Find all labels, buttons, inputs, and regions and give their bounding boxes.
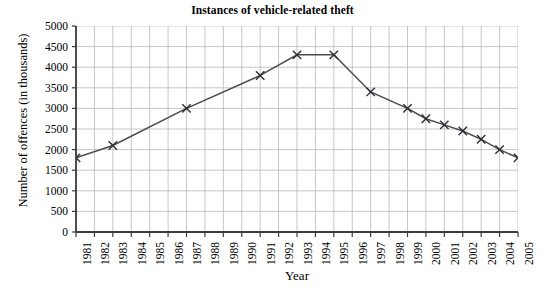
y-axis-tick-label: 2000 <box>26 144 68 156</box>
x-axis-tick-label: 2001 <box>449 242 461 265</box>
x-axis-tick-label: 1982 <box>99 242 111 265</box>
x-axis-tick-label: 2005 <box>523 242 535 265</box>
x-axis-tick-label: 1998 <box>394 242 406 265</box>
x-axis-tick-label: 2004 <box>504 242 516 265</box>
x-axis-tick-label: 2000 <box>430 242 442 265</box>
x-axis-tick-label: 1993 <box>302 242 314 265</box>
y-axis-tick-label: 1000 <box>26 185 68 197</box>
x-axis-label: Year <box>76 268 518 284</box>
x-axis-tick-label: 1985 <box>154 242 166 265</box>
x-axis-tick-label: 1981 <box>81 242 93 265</box>
y-axis-tick-label: 4500 <box>26 41 68 53</box>
x-axis-tick-label: 1997 <box>375 242 387 265</box>
x-axis-tick-label: 1986 <box>173 242 185 265</box>
y-axis-tick-label: 3000 <box>26 102 68 114</box>
y-axis-tick-label: 3500 <box>26 82 68 94</box>
x-axis-tick-label: 1988 <box>209 242 221 265</box>
x-axis-tick-label: 1992 <box>283 242 295 265</box>
x-axis-tick-label: 1994 <box>320 242 332 265</box>
x-axis-tick-label: 1983 <box>117 242 129 265</box>
y-axis-tick-label: 0 <box>26 226 68 238</box>
x-axis-tick-label: 1984 <box>136 242 148 265</box>
y-axis-tick-label: 4000 <box>26 61 68 73</box>
chart-container: Instances of vehicle-related theft Numbe… <box>0 0 545 293</box>
x-axis-tick-label: 1995 <box>338 242 350 265</box>
y-axis-tick-label: 500 <box>26 205 68 217</box>
x-axis-tick-label: 2003 <box>486 242 498 265</box>
x-axis-tick-label: 2002 <box>467 242 479 265</box>
x-axis-tick-label: 1987 <box>191 242 203 265</box>
y-axis-tick-label: 1500 <box>26 164 68 176</box>
y-axis-tick-label: 5000 <box>26 20 68 32</box>
x-axis-tick-label: 1999 <box>412 242 424 265</box>
x-axis-tick-label: 1990 <box>246 242 258 265</box>
data-point-marker <box>514 154 518 162</box>
x-axis-tick-label: 1996 <box>357 242 369 265</box>
y-axis-tick-label: 2500 <box>26 123 68 135</box>
x-axis-tick-label: 1991 <box>265 242 277 265</box>
plot-area <box>76 26 518 232</box>
x-axis-tick-label: 1989 <box>228 242 240 265</box>
line-chart-svg <box>76 26 518 232</box>
